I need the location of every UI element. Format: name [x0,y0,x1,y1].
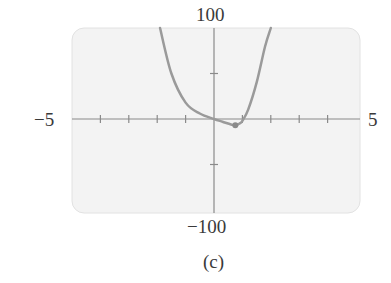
x-max-label: 5 [368,110,378,129]
minimum-point-marker [232,122,238,128]
y-min-label: −100 [187,217,226,236]
x-min-label: −5 [34,110,54,129]
y-max-label: 100 [196,5,225,24]
chart-plot [0,0,391,283]
figure-caption: (c) [203,252,224,271]
